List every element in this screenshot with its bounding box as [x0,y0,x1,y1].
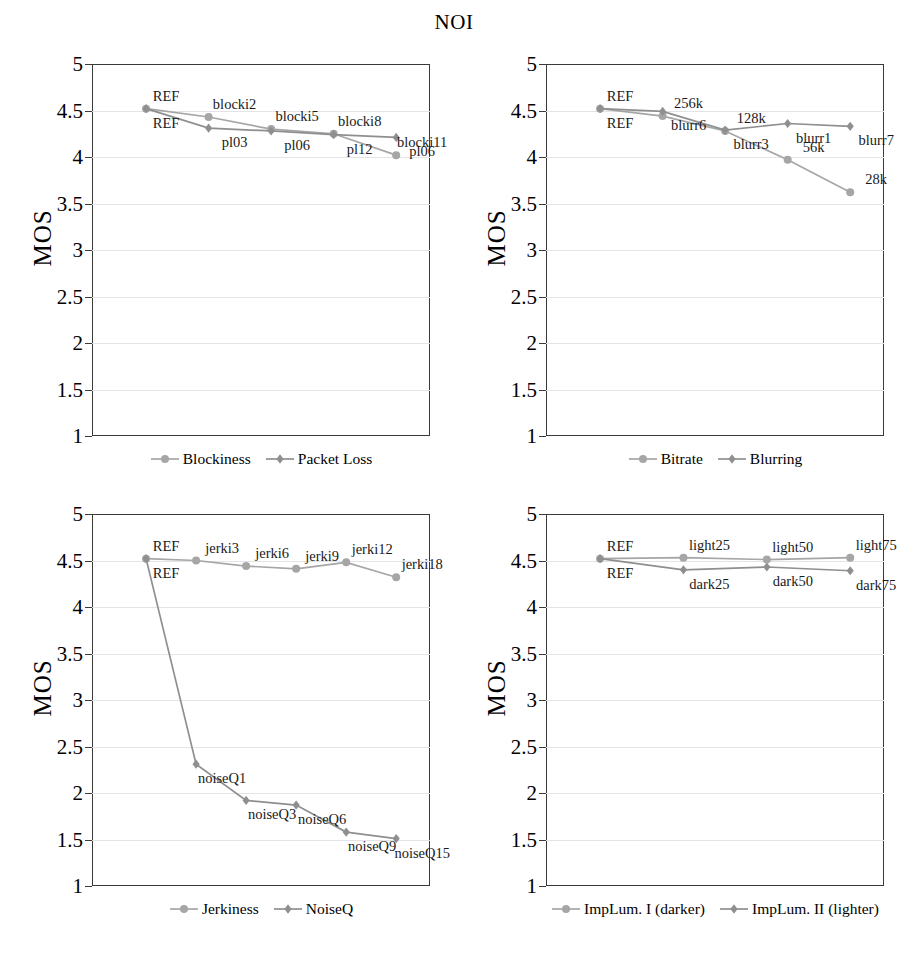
legend-item[interactable]: ImpLum. II (lighter) [719,900,879,918]
y-axis-tick-label: 4 [527,145,538,170]
data-point-label: noiseQ15 [394,844,450,861]
y-axis-tick-label: 5 [527,52,538,77]
data-point-marker [846,188,854,196]
y-axis-tick-label: 2 [527,331,538,356]
y-axis-tick-label: 2 [527,781,538,806]
data-point-label: jerki6 [255,545,289,562]
series-line [600,558,850,560]
y-axis-tick-label: 2.5 [511,284,537,309]
legend-item[interactable]: Blockiness [150,450,251,468]
y-axis-tick-label: 4 [73,145,84,170]
y-axis-tick-label: 3 [73,688,84,713]
y-axis-tick-label: 3.5 [57,641,83,666]
y-axis-tick-label: 5 [73,52,84,77]
chart-panel-bottom-left: MOS 54.543.532.521.51REFjerki3jerki6jerk… [0,494,454,954]
data-point-label: REF [153,537,180,554]
data-point-label: pl12 [347,140,373,157]
plot-area-top-right: 54.543.532.521.51REF256k128k56k28kREFblu… [546,64,884,436]
data-point-label: jerki18 [402,556,443,573]
y-axis-tick-label: 4 [73,595,84,620]
y-axis-tick-label: 3 [73,238,84,263]
legend-item[interactable]: Blurring [717,450,803,468]
data-point-marker [784,119,791,128]
y-axis-tick-mark [85,343,92,344]
data-point-label: blurr6 [671,117,706,134]
data-point-marker [680,565,687,574]
legend-diamond-marker-icon [717,452,747,466]
legend-top-right: BitrateBlurring [546,450,884,468]
y-axis-tick-label: 2.5 [511,734,537,759]
data-point-marker [847,566,854,575]
y-axis-tick-mark [539,514,546,515]
plot-area-bottom-left: 54.543.532.521.51REFjerki3jerki6jerki9je… [92,514,430,886]
data-point-marker [242,562,250,570]
y-axis-tick-mark [85,111,92,112]
figure-title: NOI [0,10,908,35]
data-point-marker [142,104,149,113]
y-axis-tick-mark [539,111,546,112]
data-point-label: pl06 [284,136,310,153]
legend-item[interactable]: Bitrate [628,450,703,468]
y-axis-tick-label: 2 [73,331,84,356]
y-axis-tick-mark [85,561,92,562]
legend-label: Jerkiness [202,900,259,918]
y-axis-tick-label: 1 [527,874,538,899]
y-axis-tick-mark [85,654,92,655]
y-axis-tick-mark [539,793,546,794]
y-axis-tick-label: 4.5 [511,548,537,573]
legend-item[interactable]: NoiseQ [273,900,353,918]
y-axis-tick-mark [85,607,92,608]
data-point-label: blocki8 [338,112,382,129]
y-axis-tick-label: 2.5 [57,284,83,309]
data-point-marker [763,556,771,564]
y-axis-tick-label: 4 [527,595,538,620]
data-point-label: noiseQ6 [298,811,346,828]
data-point-marker [847,122,854,131]
y-axis-tick-label: 1.5 [511,377,537,402]
y-axis-tick-mark [85,514,92,515]
data-point-marker [193,760,200,769]
legend-circle-marker-icon [169,902,199,916]
y-axis-tick-label: 4.5 [57,98,83,123]
legend-item[interactable]: Jerkiness [169,900,259,918]
data-point-label: blocki2 [213,96,257,113]
series-layer [92,514,430,886]
series-layer [546,64,884,436]
y-axis-tick-label: 3.5 [511,641,537,666]
data-point-marker [205,124,212,133]
data-point-label: blurr7 [858,132,893,149]
y-axis-tick-mark [539,561,546,562]
y-axis-tick-mark [85,250,92,251]
y-axis-tick-label: 4.5 [511,98,537,123]
legend-circle-marker-icon [551,902,581,916]
legend-label: Blockiness [183,450,251,468]
plot-area-top-left: 54.543.532.521.51REFblocki2blocki5blocki… [92,64,430,436]
legend-item[interactable]: ImpLum. I (darker) [551,900,705,918]
y-axis-tick-label: 3 [527,688,538,713]
y-axis-tick-mark [85,64,92,65]
legend-diamond-marker-icon [273,902,303,916]
data-point-marker [392,151,400,159]
y-axis-tick-mark [539,250,546,251]
figure-noi: NOI MOS 54.543.532.521.51REFblocki2block… [0,0,908,961]
y-axis-tick-label: 3.5 [57,191,83,216]
data-point-label: jerki3 [205,539,239,556]
y-axis-title: MOS [29,209,57,266]
y-axis-tick-mark [85,204,92,205]
y-axis-tick-mark [539,64,546,65]
data-point-label: dark50 [773,573,813,590]
data-point-label: light25 [689,536,730,553]
legend-diamond-marker-icon [265,452,295,466]
data-point-label: blocki5 [275,108,319,125]
chart-panel-top-left: MOS 54.543.532.521.51REFblocki2blocki5bl… [0,44,454,484]
legend-label: Packet Loss [298,450,372,468]
chart-panel-bottom-right: MOS 54.543.532.521.51REFlight25light50li… [454,494,908,954]
y-axis-tick-mark [85,700,92,701]
legend-item[interactable]: Packet Loss [265,450,372,468]
data-point-label: light75 [856,536,897,553]
y-axis-tick-mark [85,297,92,298]
data-point-label: pl03 [222,134,248,151]
data-point-marker [679,554,687,562]
data-point-label: REF [153,114,180,131]
legend-label: ImpLum. I (darker) [584,900,705,918]
